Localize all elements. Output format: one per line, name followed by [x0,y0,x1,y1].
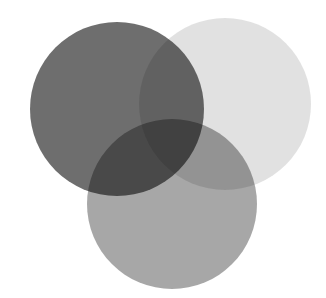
venn-diagram [0,0,326,298]
venn-circle-bottom [87,119,257,289]
